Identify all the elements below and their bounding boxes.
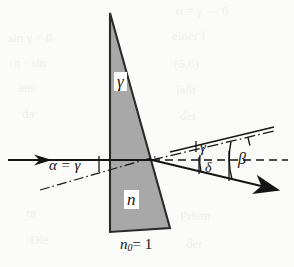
prism-wedge-shape — [110, 13, 170, 232]
ambient-index-symbol: n — [120, 236, 128, 252]
incidence-angle-label: α = γ — [49, 158, 80, 173]
refraction-diagram-figure: α = γ — 0sin γ = 0einer fn · sin(5.6)aus… — [0, 0, 294, 267]
gamma-reference-dashdot-line — [152, 131, 274, 160]
prism-refractive-index-label: n — [124, 190, 139, 209]
refracted-outgoing-ray — [152, 160, 278, 190]
gamma-angle-arc — [248, 138, 250, 146]
deviation-angle-label: δ — [205, 161, 212, 175]
ambient-index-value: = 1 — [132, 236, 152, 252]
apex-angle-label: γ — [114, 72, 127, 91]
delta-angle-arc — [200, 155, 201, 172]
gamma-upper-boundary-line — [170, 127, 274, 152]
diagram-canvas — [0, 0, 294, 267]
ambient-refractive-index-label: n0= 1 — [120, 237, 152, 253]
refraction-angle-label: β — [238, 151, 246, 167]
exit-gamma-angle-label: γ — [200, 140, 206, 155]
